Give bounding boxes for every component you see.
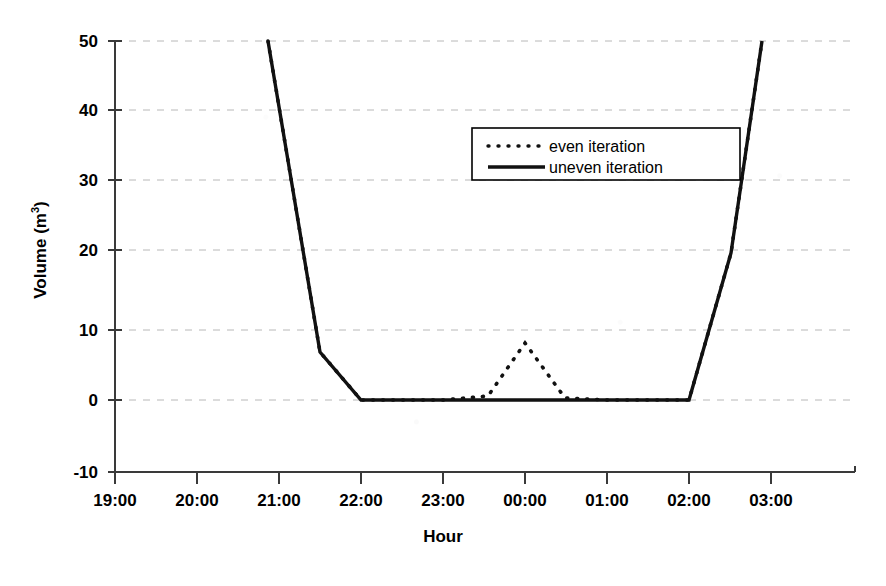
y-tick-label-20: 20 <box>79 241 98 260</box>
y-axis-title-main: Volume (m <box>31 213 50 299</box>
legend-label-even-iteration: even iteration <box>549 138 645 155</box>
x-axis-title: Hour <box>423 527 463 546</box>
x-tick-label-19-00: 19:00 <box>93 491 136 510</box>
y-tick-labels: 50 40 30 20 10 0 -10 <box>73 32 98 482</box>
axes <box>109 41 855 472</box>
y-tick-label-40: 40 <box>79 101 98 120</box>
x-tick-label-23-00: 23:00 <box>421 491 464 510</box>
x-tick-label-21-00: 21:00 <box>257 491 300 510</box>
x-ticks <box>115 472 771 484</box>
series-uneven-iteration <box>268 41 762 400</box>
x-tick-labels: 19:00 20:00 21:00 22:00 23:00 00:00 01:0… <box>93 491 792 510</box>
x-tick-label-20-00: 20:00 <box>175 491 218 510</box>
series-even-iteration <box>268 41 762 400</box>
y-tick-label-50: 50 <box>79 32 98 51</box>
y-tick-label-30: 30 <box>79 171 98 190</box>
legend-label-uneven-iteration: uneven iteration <box>549 159 663 176</box>
x-tick-label-02-00: 02:00 <box>667 491 710 510</box>
svg-text:Volume (m3): Volume (m3) <box>29 201 50 298</box>
chart-figure: 50 40 30 20 10 0 -10 19:00 20:00 21:00 2… <box>0 0 886 586</box>
gridlines <box>115 41 855 400</box>
x-tick-label-01-00: 01:00 <box>585 491 628 510</box>
y-axis-title-tail: ) <box>31 201 50 207</box>
volume-hour-line-chart: 50 40 30 20 10 0 -10 19:00 20:00 21:00 2… <box>0 0 886 586</box>
chart-legend: even iteration uneven iteration <box>472 128 740 180</box>
x-tick-label-03-00: 03:00 <box>749 491 792 510</box>
y-tick-label-10: 10 <box>79 321 98 340</box>
x-tick-label-22-00: 22:00 <box>339 491 382 510</box>
x-tick-label-00-00: 00:00 <box>503 491 546 510</box>
y-tick-label--10: -10 <box>73 463 98 482</box>
y-tick-label-0: 0 <box>89 391 98 410</box>
y-axis-title: Volume (m3) <box>29 201 50 298</box>
